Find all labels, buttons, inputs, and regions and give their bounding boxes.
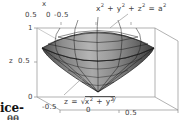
figure-3d-ice-cream-cone: x 0.5 0 -0.5 z 1 0.5 0 -0.5 0 0.5 y x2 +… [0, 0, 196, 120]
z-tick-1: 0.5 [18, 58, 30, 65]
z-tick-0: 1 [28, 25, 33, 32]
sphere-leader-line [110, 14, 128, 28]
sphere-eq-plus2: + [128, 4, 135, 13]
axis-label-z: z [9, 58, 13, 65]
cone-eq-radicand: x2 + y2 [85, 96, 115, 106]
cone-eq-equals: = [71, 97, 78, 106]
y-tick-2: 0.5 [125, 110, 137, 117]
sphere-eq-equals: = [149, 4, 156, 13]
page-bleed-text-line2: θθ [7, 114, 19, 120]
x-tick-1: 0 [46, 12, 51, 19]
y-tick-0: -0.5 [42, 104, 57, 111]
x-tick-2: -0.5 [54, 12, 69, 19]
cone-eq-plus: + [96, 97, 103, 106]
y-tick-1: 0 [86, 107, 91, 114]
sphere-eq-plus1: + [107, 4, 114, 13]
sphere-eq-z-exp: 2 [142, 2, 146, 8]
annotation-sphere-equation: x2 + y2 + z2 = a2 [96, 3, 167, 12]
cone-leader-line [64, 77, 84, 95]
annotation-cone-equation: z = √x2 + y2 [64, 96, 115, 105]
sphere-eq-a-exp: 2 [163, 2, 167, 8]
cone-eq-y-exp: 2 [110, 95, 114, 101]
x-tick-0: 0.5 [25, 12, 37, 19]
sphere-eq-y-exp: 2 [122, 2, 126, 8]
sphere-eq-x-exp: 2 [101, 2, 105, 8]
page-bleed-text-line1: ice- [0, 101, 24, 115]
axis-label-x: x [42, 1, 46, 8]
z-tick-2: 0 [28, 94, 33, 101]
cone-eq-x-exp: 2 [90, 95, 94, 101]
cone-eq-z: z [64, 97, 68, 106]
